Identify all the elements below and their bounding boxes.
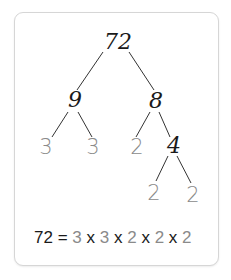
node-4: 4 (167, 135, 181, 157)
node-prime-2c: 2 (186, 185, 199, 206)
node-prime-3b: 3 (86, 137, 99, 158)
factor: 2 (155, 228, 164, 247)
factor: 2 (182, 228, 191, 247)
times-sign: x (169, 228, 178, 247)
node-8: 8 (149, 90, 163, 112)
times-sign: x (141, 228, 150, 247)
factor: 3 (100, 228, 109, 247)
node-9: 9 (68, 89, 82, 111)
times-sign: x (114, 228, 123, 247)
times-sign: x (87, 228, 96, 247)
node-prime-2a: 2 (130, 137, 143, 158)
factorization-equation: 72 = 3 x 3 x 2 x 2 x 2 (34, 228, 192, 248)
node-root: 72 (104, 31, 132, 53)
node-prime-3a: 3 (39, 137, 52, 158)
factor: 2 (127, 228, 136, 247)
node-prime-2b: 2 (147, 183, 160, 204)
equals-sign: = (58, 228, 68, 247)
factor: 3 (72, 228, 81, 247)
equation-lhs: 72 (34, 228, 53, 247)
